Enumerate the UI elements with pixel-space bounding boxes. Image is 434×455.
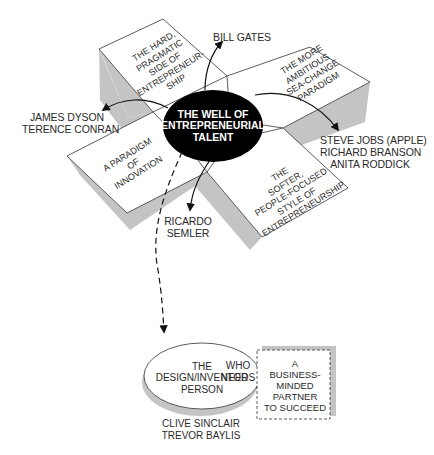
who-needs-label: WHO NEEDS <box>220 360 256 383</box>
person-name: TREVOR BAYLIS <box>138 430 264 442</box>
design-line: THE <box>192 361 212 373</box>
design-line: PERSON <box>181 384 223 396</box>
entrepreneurial-talent-diagram: THE HARD, PRAGMATIC SIDE OF ENTREPRENEUR… <box>0 0 434 455</box>
people-top: BILL GATES <box>213 31 271 43</box>
person-name: RICHARD BRANSON <box>320 146 420 158</box>
person-name: JAMES DYSON <box>22 111 112 123</box>
center-label: THE WELL OF ENTREPRENEURIAL TALENT <box>163 97 263 155</box>
person-name: ANITA RODDICK <box>320 158 420 170</box>
center-line: TALENT <box>193 132 234 144</box>
people-left: JAMES DYSON TERENCE CONRAN <box>22 111 112 135</box>
person-name: CLIVE SINCLAIR <box>138 418 264 430</box>
partner-line: MINDED <box>276 380 313 391</box>
person-name: RICARDO <box>163 215 213 227</box>
design-person-examples: CLIVE SINCLAIR TREVOR BAYLIS <box>138 418 264 441</box>
connector-line: WHO <box>220 360 256 372</box>
partner-line: PARTNER <box>273 391 318 402</box>
connector-line: NEEDS <box>220 372 256 384</box>
partner-label: A BUSINESS- MINDED PARTNER TO SUCCEED <box>258 350 332 420</box>
partner-line: BUSINESS- <box>269 369 320 380</box>
people-bottom: RICARDO SEMLER <box>163 215 213 239</box>
person-name: SEMLER <box>163 227 213 239</box>
partner-line: TO SUCCEED <box>264 402 326 413</box>
person-name: STEVE JOBS (APPLE) <box>320 134 420 146</box>
people-right: STEVE JOBS (APPLE) RICHARD BRANSON ANITA… <box>320 134 420 170</box>
partner-line: A <box>292 358 298 369</box>
person-name: TERENCE CONRAN <box>22 123 112 135</box>
person-name: BILL GATES <box>213 31 271 43</box>
